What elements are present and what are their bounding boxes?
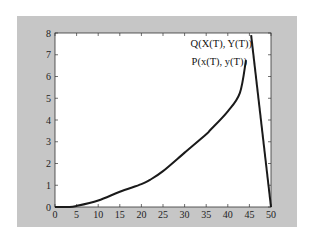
y-tick-label: 2 [46, 158, 51, 169]
y-tick-label: 4 [46, 115, 51, 126]
y-tick-label: 7 [46, 49, 51, 60]
y-axis-tick-labels: 012345678 [46, 28, 51, 213]
y-tick-label: 3 [46, 136, 51, 147]
x-tick-label: 5 [74, 209, 79, 220]
y-tick-label: 8 [46, 28, 51, 39]
y-tick-label: 1 [46, 180, 51, 191]
y-tick-label: 5 [46, 93, 51, 104]
annotation-p: P(x(T), y(T)) [192, 56, 248, 68]
x-axis-tick-labels: 05101520253035404550 [53, 209, 277, 220]
x-tick-label: 25 [158, 209, 168, 220]
chart: 05101520253035404550 012345678 Q(X(T), Y… [0, 0, 313, 242]
x-tick-label: 0 [53, 209, 58, 220]
x-tick-label: 15 [115, 209, 125, 220]
x-tick-label: 45 [244, 209, 254, 220]
annotation-q: Q(X(T), Y(T)) [191, 38, 253, 50]
x-tick-label: 30 [180, 209, 190, 220]
y-tick-label: 0 [46, 202, 51, 213]
x-tick-label: 10 [93, 209, 103, 220]
y-tick-label: 6 [46, 71, 51, 82]
x-tick-label: 40 [223, 209, 233, 220]
x-tick-label: 20 [136, 209, 146, 220]
x-tick-label: 35 [201, 209, 211, 220]
x-tick-label: 50 [266, 209, 276, 220]
